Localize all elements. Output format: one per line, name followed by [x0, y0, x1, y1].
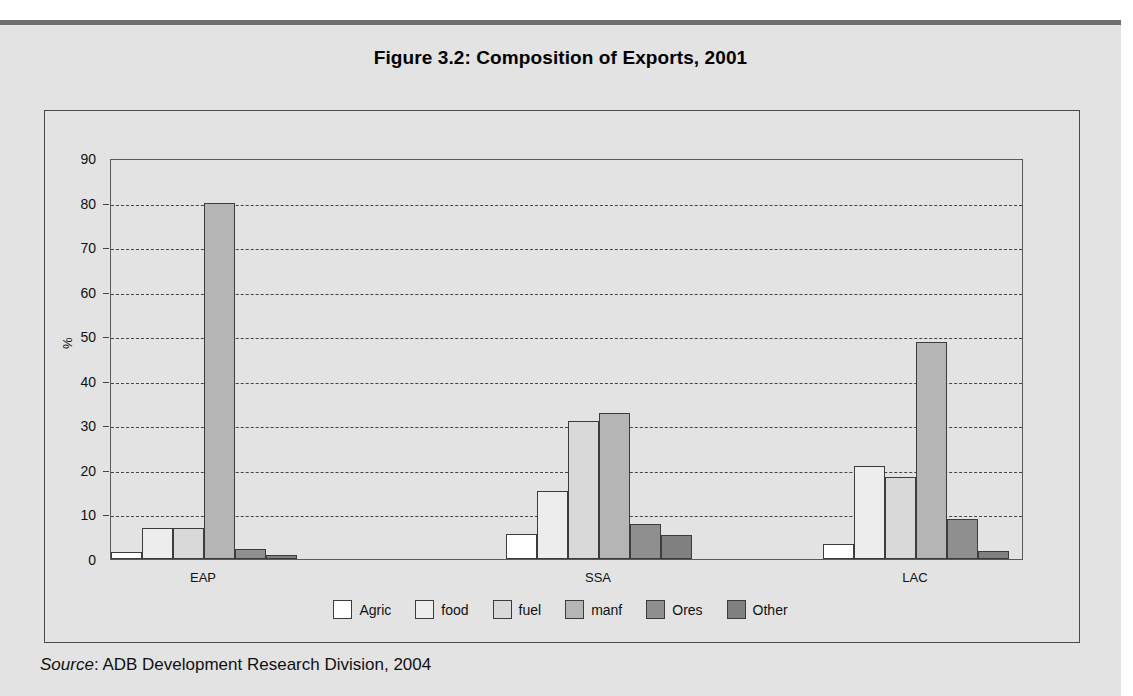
bar-ssa-agric [506, 534, 537, 559]
gridline [111, 249, 1022, 250]
y-axis-tick-mark [103, 426, 109, 427]
legend-item-ores[interactable]: Ores [646, 600, 702, 619]
gridline [111, 205, 1022, 206]
y-axis-tick-mark [103, 515, 109, 516]
legend-item-manf[interactable]: manf [565, 600, 622, 619]
y-axis-tick-label: 10 [56, 507, 96, 523]
bar-ssa-manf [599, 413, 630, 559]
source-note: Source: ADB Development Research Divisio… [40, 655, 431, 675]
y-axis-tick-mark [103, 293, 109, 294]
bar-ssa-food [537, 491, 568, 559]
y-axis-tick-label: 60 [56, 285, 96, 301]
gridline [111, 472, 1022, 473]
bar-lac-fuel [885, 477, 916, 559]
y-axis-tick-label: 70 [56, 240, 96, 256]
legend-label-manf: manf [591, 602, 622, 618]
legend-item-agric[interactable]: Agric [333, 600, 391, 619]
source-text: : ADB Development Research Division, 200… [94, 655, 431, 674]
legend-swatch-ores [646, 600, 665, 619]
legend-swatch-food [415, 600, 434, 619]
bar-ssa-other [661, 535, 692, 559]
y-axis-tick-mark [103, 204, 109, 205]
bar-eap-food [142, 528, 173, 559]
legend-label-food: food [441, 602, 468, 618]
legend-label-other: Other [753, 602, 788, 618]
bar-lac-ores [947, 519, 978, 559]
legend-label-agric: Agric [359, 602, 391, 618]
gridline [111, 338, 1022, 339]
legend-swatch-fuel [493, 600, 512, 619]
bar-lac-other [978, 551, 1009, 559]
y-axis-tick-label: 30 [56, 418, 96, 434]
bar-eap-agric [111, 552, 142, 559]
gridline [111, 383, 1022, 384]
source-label: Source [40, 655, 94, 674]
y-axis-tick-label: 80 [56, 196, 96, 212]
bar-lac-food [854, 466, 885, 559]
legend-label-ores: Ores [672, 602, 702, 618]
y-axis-tick-label: 20 [56, 463, 96, 479]
chart-legend: AgricfoodfuelmanfOresOther [0, 600, 1121, 619]
y-axis-tick-mark [103, 382, 109, 383]
y-axis-tick-mark [103, 248, 109, 249]
figure-title: Figure 3.2: Composition of Exports, 2001 [0, 47, 1121, 69]
bar-lac-manf [916, 342, 947, 559]
y-axis-tick-mark [103, 337, 109, 338]
gridline [111, 427, 1022, 428]
x-axis-label-ssa: SSA [585, 570, 611, 585]
bar-ssa-fuel [568, 421, 599, 559]
legend-item-other[interactable]: Other [727, 600, 788, 619]
bar-lac-agric [823, 544, 854, 559]
y-axis-tick-label: 90 [56, 151, 96, 167]
figure-page: Figure 3.2: Composition of Exports, 2001… [0, 0, 1133, 696]
legend-swatch-manf [565, 600, 584, 619]
legend-label-fuel: fuel [519, 602, 542, 618]
y-axis-tick-label: 50 [56, 329, 96, 345]
bar-eap-other [266, 555, 297, 559]
y-axis-tick-label: 40 [56, 374, 96, 390]
gridline [111, 294, 1022, 295]
plot-area [110, 159, 1023, 560]
x-axis-label-eap: EAP [190, 570, 216, 585]
legend-swatch-other [727, 600, 746, 619]
y-axis-tick-mark [103, 471, 109, 472]
y-axis-tick-label: 0 [56, 552, 96, 568]
bar-eap-ores [235, 549, 266, 559]
bar-ssa-ores [630, 524, 661, 559]
legend-item-food[interactable]: food [415, 600, 468, 619]
legend-item-fuel[interactable]: fuel [493, 600, 542, 619]
x-axis-label-lac: LAC [902, 570, 927, 585]
bar-eap-fuel [173, 528, 204, 559]
bar-eap-manf [204, 203, 235, 559]
legend-swatch-agric [333, 600, 352, 619]
